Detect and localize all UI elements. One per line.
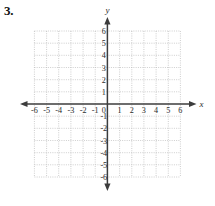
y-tick-label: -6 [100,173,107,182]
y-tick-label: 1 [102,88,106,97]
x-tick-label: -6 [31,106,38,115]
x-tick-label: -3 [67,106,74,115]
y-axis-label: y [104,5,109,15]
x-tick-label: 1 [118,106,122,115]
x-tick-label: -4 [55,106,62,115]
y-tick-label: 5 [102,39,106,48]
x-axis-label: x [199,99,204,109]
y-tick-label: 3 [102,64,106,73]
y-tick-label: 4 [102,51,106,60]
y-tick-label: 6 [102,27,106,36]
x-tick-label: 4 [154,106,158,115]
x-tick-label: -5 [43,106,50,115]
cartesian-plane: x y 0 -6 -5 -4 -3 -2 -1 1 2 3 4 5 6 -6 -… [0,0,215,206]
x-axis-right-arrow-icon [189,101,197,107]
x-tick-label: 5 [166,106,170,115]
y-tick-label: -4 [100,149,107,158]
x-tick-label: 2 [130,106,134,115]
coordinate-grid-figure: 3. [0,0,215,206]
x-tick-label: 6 [178,106,182,115]
x-tick-label: -2 [80,106,87,115]
y-axis-up-arrow-icon [104,17,110,25]
x-tick-label: 3 [142,106,146,115]
x-tick-label: -1 [92,106,99,115]
y-tick-label: -5 [100,161,107,170]
y-tick-label: -2 [100,124,107,133]
y-tick-label: 2 [102,76,106,85]
y-axis-down-arrow-icon [104,184,110,192]
y-tick-label: -3 [100,137,107,146]
y-tick-label: -1 [100,112,107,121]
axes [24,21,192,187]
x-axis-left-arrow-icon [20,101,28,107]
